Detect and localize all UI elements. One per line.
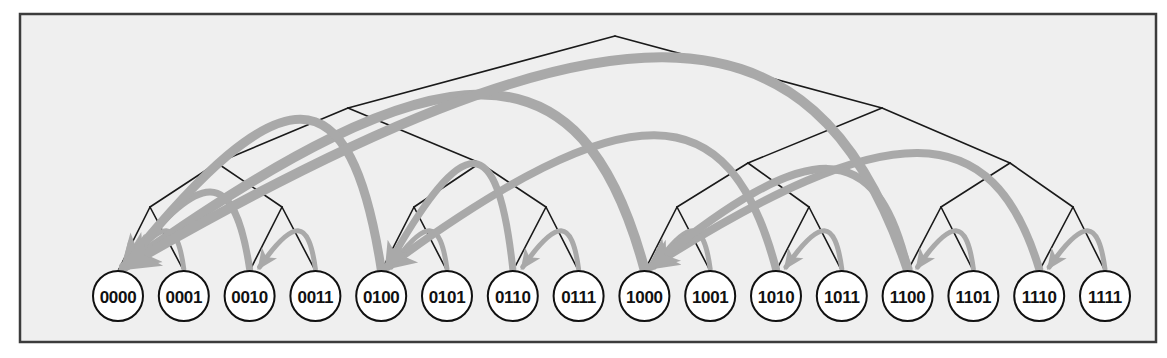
leaf-label: 1001 [692,288,729,307]
leaf-node[interactable]: 1001 [685,271,735,321]
leaf-node[interactable]: 0110 [488,271,538,321]
leaf-node[interactable]: 1101 [948,271,998,321]
leaf-label: 0100 [363,288,400,307]
leaf-label: 0001 [165,288,202,307]
leaf-node[interactable]: 1010 [751,271,801,321]
leaf-label: 1000 [626,288,663,307]
leaf-label: 1011 [824,288,860,307]
leaf-label: 0010 [231,288,268,307]
leaf-label: 0011 [298,288,334,307]
leaf-node[interactable]: 1110 [1014,271,1064,321]
bit-reversal-diagram: 0000000100100011010001010110011110001001… [0,0,1167,358]
leaf-label: 0101 [429,288,466,307]
leaf-label: 1010 [758,288,795,307]
leaf-node[interactable]: 0010 [225,271,275,321]
leaf-node[interactable]: 0100 [356,271,406,321]
leaf-label: 0110 [495,288,531,307]
leaf-node[interactable]: 1100 [883,271,933,321]
leaf-node[interactable]: 0011 [290,271,340,321]
leaf-node[interactable]: 0101 [422,271,472,321]
leaf-node[interactable]: 0000 [93,271,143,321]
diagram-canvas: 0000000100100011010001010110011110001001… [0,0,1167,358]
leaf-label: 1110 [1022,288,1057,307]
leaf-node[interactable]: 0001 [159,271,209,321]
leaf-label: 1101 [956,288,992,307]
leaf-label: 0000 [100,288,137,307]
leaf-node[interactable]: 1011 [817,271,867,321]
leaf-node[interactable]: 1000 [619,271,669,321]
leaf-node[interactable]: 0111 [554,271,604,321]
leaf-label: 0111 [561,288,596,307]
leaf-label: 1111 [1088,288,1122,307]
leaf-label: 1100 [890,288,926,307]
leaf-node[interactable]: 1111 [1080,271,1130,321]
